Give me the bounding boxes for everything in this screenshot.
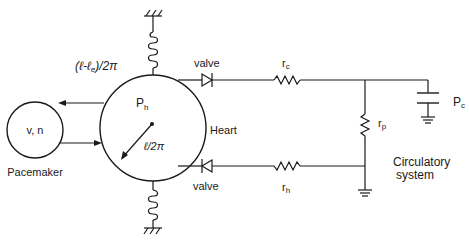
circulatory-system-caption: Circulatory system bbox=[393, 155, 450, 182]
valve-top-label: valve bbox=[194, 57, 220, 69]
pacemaker-inner-label: v, n bbox=[27, 124, 44, 136]
valve-diode-icon bbox=[202, 160, 212, 172]
rp-label: rp bbox=[378, 117, 387, 131]
pacemaker-caption: Pacemaker bbox=[7, 166, 63, 178]
capacitor-pc: Pc bbox=[417, 80, 465, 123]
heart-node: Ph ℓ/2π Heart bbox=[100, 75, 237, 181]
return-branch: valve rh bbox=[178, 159, 365, 195]
heart-pressure-label: Ph bbox=[136, 96, 148, 112]
heart-circle bbox=[100, 75, 206, 181]
top-spring: (ℓ-ℓe)/2π bbox=[75, 10, 162, 75]
system-label-line2: system bbox=[396, 168, 434, 182]
pacemaker-heart-arrows bbox=[58, 100, 104, 146]
arrowhead-right-icon bbox=[94, 140, 102, 146]
spring-coil-icon bbox=[149, 190, 158, 220]
arrowhead-left-icon bbox=[58, 100, 66, 106]
pacemaker-node: v, n Pacemaker bbox=[7, 102, 63, 178]
spring-coil-icon bbox=[149, 32, 158, 68]
heart-radius-label: ℓ/2π bbox=[143, 140, 165, 152]
rh-label: rh bbox=[282, 181, 290, 195]
heart-caption: Heart bbox=[210, 124, 237, 136]
valve-diode-icon bbox=[202, 74, 212, 86]
spring-length-label: (ℓ-ℓe)/2π bbox=[75, 59, 118, 74]
bottom-spring bbox=[144, 181, 162, 234]
rc-label: rc bbox=[282, 57, 290, 71]
resistor-rp-icon bbox=[361, 114, 369, 136]
outflow-branch: valve rc bbox=[178, 57, 428, 87]
heart-circuit-diagram: v, n Pacemaker Ph ℓ/2π Heart (ℓ-ℓe)/2π bbox=[0, 0, 469, 245]
valve-bottom-label: valve bbox=[193, 180, 219, 192]
capacitor-label: Pc bbox=[453, 95, 465, 110]
resistor-rh-icon bbox=[274, 162, 300, 170]
resistor-rc-icon bbox=[274, 76, 300, 84]
peripheral-resistor: rp bbox=[358, 80, 387, 196]
system-label-line1: Circulatory bbox=[393, 155, 450, 169]
